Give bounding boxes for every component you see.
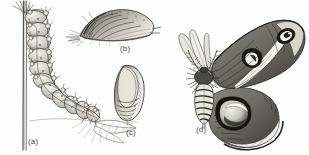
plate-artwork bbox=[0, 0, 309, 155]
figure-label-b: (b) bbox=[120, 44, 130, 53]
hindwing-eyespot bbox=[216, 97, 252, 131]
illustration-plate: (a) (b) (c) (d) bbox=[0, 0, 309, 155]
figure-label-c: (c) bbox=[126, 128, 136, 137]
figure-label-d: (d) bbox=[196, 125, 206, 134]
figure-label-a: (a) bbox=[28, 137, 38, 146]
